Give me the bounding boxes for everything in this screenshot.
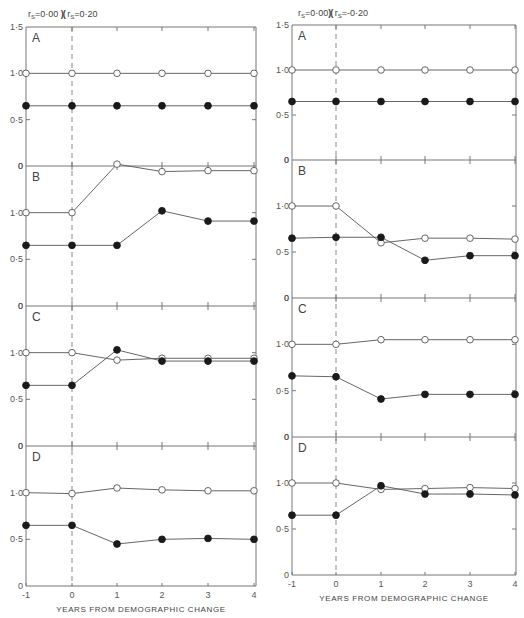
filled-circle-marker <box>333 234 340 241</box>
open-circle-marker <box>114 357 121 364</box>
panel-d: 00·51·00D <box>276 432 518 580</box>
open-circle-marker <box>422 336 429 343</box>
series-line-filled <box>26 350 254 385</box>
open-circle-marker <box>69 70 76 77</box>
y-tick-label: 1·5 <box>10 22 23 32</box>
filled-circle-marker <box>114 102 121 109</box>
filled-circle-marker <box>159 536 166 543</box>
open-circle-marker <box>205 70 212 77</box>
panel-a: 00·51·01·5A <box>10 22 257 171</box>
filled-circle-marker <box>251 358 258 365</box>
panel-label: D <box>298 441 307 455</box>
filled-circle-marker <box>467 391 474 398</box>
open-circle-marker <box>333 203 340 210</box>
filled-circle-marker <box>289 98 296 105</box>
y-tick-label: 1·0 <box>276 65 289 75</box>
panel-label: A <box>32 31 40 45</box>
series-line-filled <box>26 211 254 246</box>
y-tick-label: 1·0 <box>10 348 23 358</box>
open-circle-marker <box>333 341 340 348</box>
filled-circle-marker <box>69 382 76 389</box>
panel-label: D <box>32 450 41 464</box>
open-circle-marker <box>512 485 519 492</box>
x-axis-label: YEARS FROM DEMOGRAPHIC CHANGE <box>319 594 488 603</box>
filled-circle-marker <box>23 242 30 249</box>
open-circle-marker <box>467 67 474 74</box>
open-circle-marker <box>205 167 212 174</box>
filled-circle-marker <box>422 491 429 498</box>
open-circle-marker <box>69 349 76 356</box>
open-circle-marker <box>512 236 519 243</box>
y-tick-label: 0·5 <box>276 247 289 257</box>
chart-left: rS=0·00 )( rS=0·2000·51·01·5A00·51·00B00… <box>10 9 257 614</box>
open-circle-marker <box>251 70 258 77</box>
filled-circle-marker <box>114 346 121 353</box>
y-tick-label: 0 <box>284 155 289 165</box>
open-circle-marker <box>467 484 474 491</box>
x-tick-label: 3 <box>467 579 472 589</box>
panel-b: 00·51·00B <box>10 161 257 311</box>
panel-label: C <box>32 310 41 324</box>
open-circle-marker <box>251 488 258 495</box>
open-circle-marker <box>114 161 121 168</box>
series-line-open <box>26 164 254 213</box>
filled-circle-marker <box>205 102 212 109</box>
open-circle-marker <box>333 480 340 487</box>
y-tick-label: 0 <box>18 441 23 451</box>
open-circle-marker <box>114 70 121 77</box>
series-line-filled <box>26 525 254 544</box>
x-axis-label: YEARS FROM DEMOGRAPHIC CHANGE <box>56 605 225 614</box>
filled-circle-marker <box>378 98 385 105</box>
y-tick-label: 0·5 <box>10 394 23 404</box>
filled-circle-marker <box>23 102 30 109</box>
open-circle-marker <box>159 70 166 77</box>
panel-label: B <box>298 164 306 178</box>
x-tick-label: 1 <box>114 590 119 600</box>
chart-right: rS=0·00)( rS=-0·2000·51·01·5A00·51·00B00… <box>276 8 518 603</box>
filled-circle-marker <box>205 358 212 365</box>
y-tick-label: 0 <box>18 301 23 311</box>
filled-circle-marker <box>512 98 519 105</box>
open-circle-marker <box>23 70 30 77</box>
filled-circle-marker <box>69 522 76 529</box>
open-circle-marker <box>378 67 385 74</box>
y-tick-label: 0·5 <box>276 386 289 396</box>
filled-circle-marker <box>251 102 258 109</box>
y-tick-label: 0·5 <box>276 524 289 534</box>
open-circle-marker <box>422 67 429 74</box>
open-circle-marker <box>23 209 30 216</box>
chart-title: rS=0·00)( rS=-0·20 <box>298 8 368 19</box>
filled-circle-marker <box>159 207 166 214</box>
open-circle-marker <box>69 209 76 216</box>
filled-circle-marker <box>114 541 121 548</box>
filled-circle-marker <box>378 234 385 241</box>
filled-circle-marker <box>289 235 296 242</box>
open-circle-marker <box>23 489 30 496</box>
filled-circle-marker <box>23 382 30 389</box>
filled-circle-marker <box>467 252 474 259</box>
filled-circle-marker <box>69 102 76 109</box>
open-circle-marker <box>205 488 212 495</box>
y-tick-label: 0 <box>284 293 289 303</box>
open-circle-marker <box>289 67 296 74</box>
x-tick-label: 0 <box>333 579 338 589</box>
filled-circle-marker <box>159 358 166 365</box>
filled-circle-marker <box>378 482 385 489</box>
x-tick-label: 1 <box>378 579 383 589</box>
x-tick-label: 3 <box>205 590 210 600</box>
y-tick-label: 1·5 <box>276 20 289 30</box>
open-circle-marker <box>378 336 385 343</box>
filled-circle-marker <box>205 535 212 542</box>
series-line-open <box>26 488 254 494</box>
x-tick-label: 4 <box>251 590 256 600</box>
filled-circle-marker <box>333 512 340 519</box>
filled-circle-marker <box>512 492 519 499</box>
series-line-filled <box>292 376 515 399</box>
open-circle-marker <box>69 490 76 497</box>
panel-label: A <box>298 29 306 43</box>
figure: rS=0·00 )( rS=0·2000·51·01·5A00·51·00B00… <box>0 0 524 618</box>
series-line-open <box>292 340 515 345</box>
filled-circle-marker <box>289 372 296 379</box>
y-tick-label: 1·0 <box>10 68 23 78</box>
filled-circle-marker <box>422 98 429 105</box>
